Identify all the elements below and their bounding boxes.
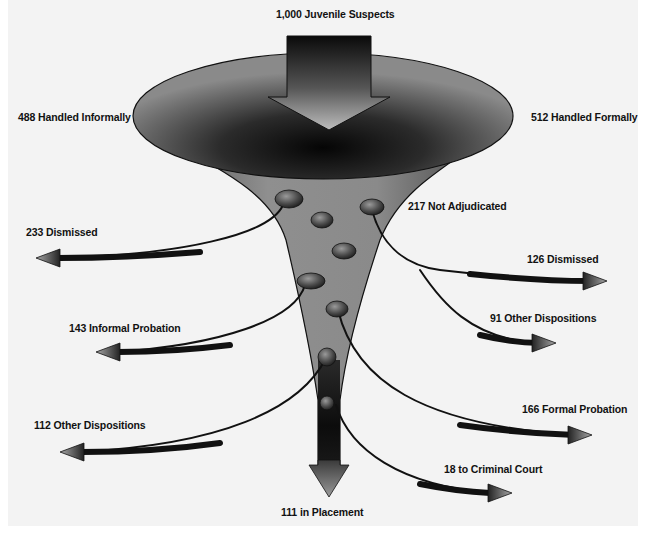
arrowhead-formal-probation — [568, 426, 592, 444]
label-handled-informally: 488 Handled Informally — [18, 111, 131, 123]
node-not-adjudicated — [360, 199, 384, 215]
arrowhead-informal-probation — [96, 343, 120, 361]
placement-arrow — [309, 460, 349, 497]
node-formal-probation — [326, 301, 348, 317]
flow-informal-other — [78, 358, 326, 452]
arrowhead-notadj-dismissed — [583, 272, 607, 290]
label-placement: 111 in Placement — [281, 506, 363, 518]
label-informal-probation: 143 Informal Probation — [69, 322, 181, 334]
label-criminal-court: 18 to Criminal Court — [444, 463, 542, 475]
title-label: 1,000 Juvenile Suspects — [276, 8, 395, 20]
arrowhead-notadj-other — [532, 334, 556, 352]
flow-formal-probation — [338, 310, 575, 435]
node-informal-probation — [297, 273, 325, 289]
node-informal-other — [318, 348, 336, 366]
label-notadj-dismissed: 126 Dismissed — [527, 253, 599, 265]
arrowhead-informal-other — [60, 443, 84, 461]
label-informal-other: 112 Other Dispositions — [34, 419, 146, 431]
label-notadj-other: 91 Other Dispositions — [490, 312, 596, 324]
flow-notadj-dismissed — [372, 210, 592, 281]
diagram-stage: 1,000 Juvenile Suspects 488 Handled Info… — [0, 0, 645, 533]
funnel-diagram — [0, 0, 645, 533]
arrowhead-informal-dismissed — [36, 249, 60, 267]
flow-informal-probation — [115, 285, 305, 352]
node-informal-b — [332, 243, 356, 259]
label-not-adjudicated: 217 Not Adjudicated — [408, 200, 507, 212]
label-informal-dismissed: 233 Dismissed — [26, 226, 98, 238]
node-informal-dismissed — [275, 190, 303, 208]
node-informal-a — [311, 212, 333, 228]
label-formal-probation: 166 Formal Probation — [522, 403, 627, 415]
label-handled-formally: 512 Handled Formally — [531, 111, 638, 123]
node-criminal-court — [320, 396, 334, 410]
arrowhead-criminal-court — [488, 484, 512, 502]
